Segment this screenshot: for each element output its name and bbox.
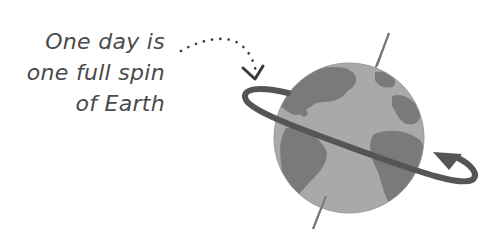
axis-line-upper [377,33,389,66]
dotted-pointer-arrow-icon [181,39,263,79]
globe-icon [274,63,424,213]
earth-rotation-diagram [0,0,490,229]
